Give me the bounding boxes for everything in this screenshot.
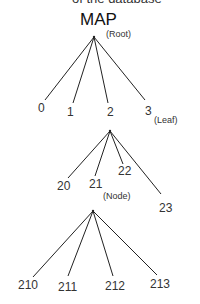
node-0: 0 [38,101,45,115]
node-210: 210 [18,278,38,292]
node-22: 22 [118,164,132,178]
map-title: MAP [80,10,117,29]
node-212: 212 [105,279,125,293]
root-label: (Root) [106,29,131,39]
node-3: 3 [145,104,152,118]
node-2: 2 [107,105,114,119]
root-node [93,36,95,38]
node-2-apex [109,130,111,132]
root-edges [45,37,145,103]
node21-edges [33,211,157,277]
node-20: 20 [57,179,71,193]
tree-diagram: of the database MAP (Root) 0 1 2 3 (Leaf… [0,0,200,304]
node-label: (Node) [103,191,131,201]
cut-off-caption: of the database [72,0,162,6]
node-213: 213 [150,277,170,291]
node-21: 21 [89,177,103,191]
node-211: 211 [58,280,77,294]
node-23: 23 [159,201,173,215]
node2-edges [68,131,161,194]
node-21-apex [92,210,94,212]
leaf-label: (Leaf) [154,115,178,125]
node-1: 1 [67,105,74,119]
